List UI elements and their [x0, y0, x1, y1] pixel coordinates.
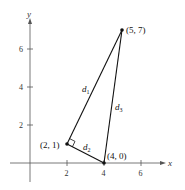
point-4-0: [102, 161, 106, 165]
y-tick-label-2: 2: [19, 121, 23, 130]
point-5-7: [120, 28, 124, 32]
y-tick-label-4: 4: [19, 83, 23, 92]
y-tick-label-6: 6: [19, 45, 23, 54]
point-2-1: [65, 142, 69, 146]
segment-label-d1: d1: [82, 84, 90, 95]
x-tick-label-4: 4: [102, 169, 106, 178]
segment-label-d2: d2: [83, 142, 91, 153]
segment-label-d3: d3: [115, 102, 123, 113]
triangle: [67, 30, 122, 163]
point-label-5-7: (5, 7): [126, 25, 146, 35]
right-triangle-diagram: x y 2 4 6 2 4 6 (5, 7) (2, 1) (4, 0) d1 …: [0, 0, 185, 190]
x-tick-label-2: 2: [65, 169, 69, 178]
y-axis-label: y: [26, 9, 31, 19]
segment-d3: [104, 30, 122, 163]
x-axis-arrow-icon: [160, 161, 166, 165]
x-tick-label-6: 6: [139, 169, 143, 178]
x-axis-label: x: [167, 158, 172, 168]
point-label-4-0: (4, 0): [107, 151, 127, 161]
axes: [10, 22, 162, 182]
coordinate-plane: x y 2 4 6 2 4 6 (5, 7) (2, 1) (4, 0) d1 …: [0, 0, 185, 190]
point-label-2-1: (2, 1): [40, 140, 60, 150]
